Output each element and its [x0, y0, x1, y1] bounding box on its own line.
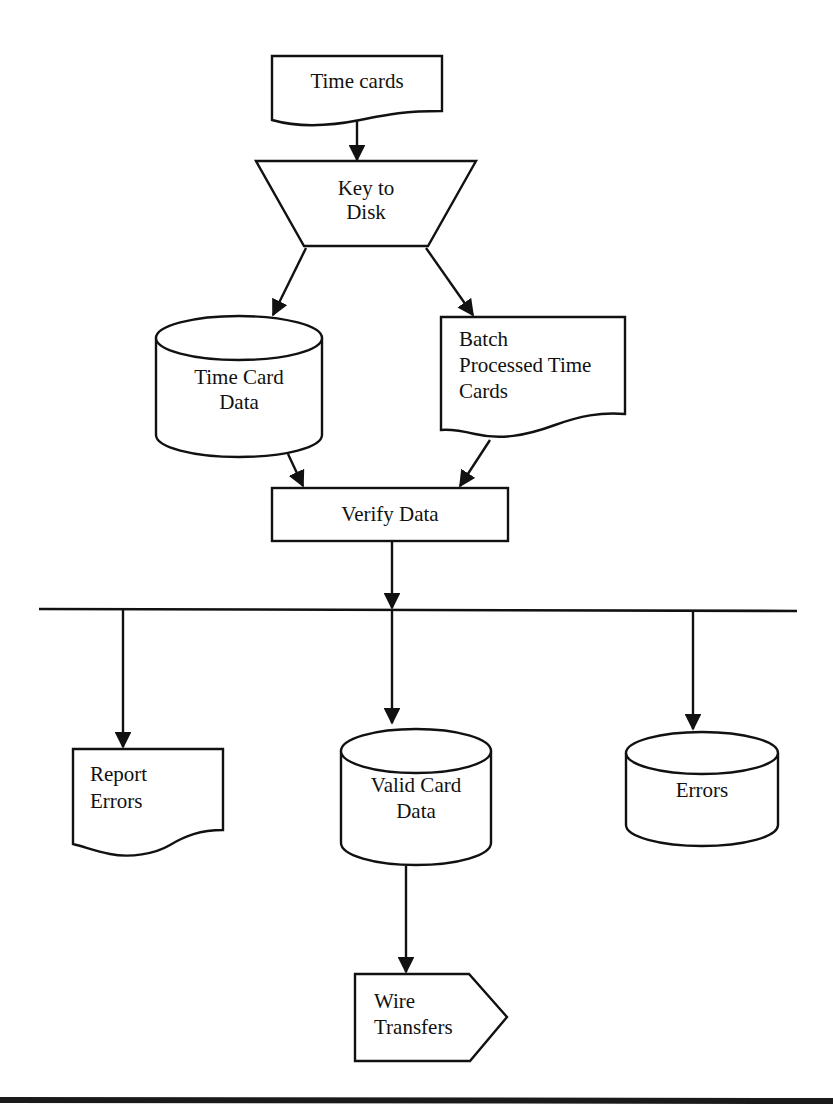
node-wire-transfers-label-2: Transfers	[374, 1015, 453, 1039]
flowchart-canvas: Time cards Key to Disk Time Card Data Ba…	[0, 0, 833, 1118]
svg-text:Batch: Batch	[459, 327, 508, 351]
node-wire-transfers-label-1: Wire	[374, 989, 415, 1013]
svg-text:Data: Data	[219, 390, 259, 414]
svg-text:Verify Data: Verify Data	[341, 502, 439, 526]
node-time-cards[interactable]: Time cards	[272, 56, 442, 125]
node-time-card-data-label-2: Data	[219, 390, 259, 414]
svg-text:Report: Report	[90, 762, 147, 786]
svg-text:Errors: Errors	[676, 778, 728, 802]
node-report-errors-label-1: Report	[90, 762, 147, 786]
svg-text:Errors: Errors	[90, 789, 142, 813]
node-errors[interactable]: Errors	[626, 732, 778, 846]
svg-text:Transfers: Transfers	[374, 1015, 453, 1039]
node-time-cards-label: Time cards	[310, 69, 403, 93]
node-valid-card-data[interactable]: Valid Card Data	[341, 729, 491, 865]
node-errors-label: Errors	[676, 778, 728, 802]
node-batch-processed-time-cards[interactable]: Batch Processed Time Cards	[441, 317, 625, 437]
node-verify-data[interactable]: Verify Data	[272, 488, 508, 541]
svg-text:Cards: Cards	[459, 379, 508, 403]
svg-text:Data: Data	[396, 799, 436, 823]
node-batch-label-3: Cards	[459, 379, 508, 403]
svg-text:Processed Time: Processed Time	[459, 353, 591, 377]
node-time-card-data-label-1: Time Card	[194, 365, 284, 389]
arrow-batch-to-verify	[460, 440, 490, 486]
svg-text:Disk: Disk	[346, 200, 386, 224]
node-time-card-data[interactable]: Time Card Data	[156, 316, 322, 457]
svg-text:Wire: Wire	[374, 989, 415, 1013]
node-key-to-disk-label-2: Disk	[346, 200, 386, 224]
node-verify-data-label: Verify Data	[341, 502, 439, 526]
node-key-to-disk[interactable]: Key to Disk	[256, 161, 476, 246]
node-valid-card-data-label-2: Data	[396, 799, 436, 823]
node-valid-card-data-label-1: Valid Card	[371, 773, 462, 797]
svg-text:Key to: Key to	[338, 176, 395, 200]
svg-text:Time cards: Time cards	[310, 69, 403, 93]
arrow-keytodisk-to-timecarddata	[273, 248, 306, 315]
svg-text:Time Card: Time Card	[194, 365, 284, 389]
arrow-keytodisk-to-batch	[426, 248, 473, 315]
arrow-timecarddata-to-verify	[288, 454, 303, 486]
node-report-errors[interactable]: Report Errors	[73, 749, 223, 856]
node-report-errors-label-2: Errors	[90, 789, 142, 813]
bottom-rule-divider	[0, 1100, 833, 1101]
node-batch-label-1: Batch	[459, 327, 508, 351]
node-key-to-disk-label-1: Key to	[338, 176, 395, 200]
node-batch-label-2: Processed Time	[459, 353, 591, 377]
node-wire-transfers[interactable]: Wire Transfers	[355, 974, 507, 1061]
distribution-bus-line	[39, 609, 797, 611]
svg-text:Valid Card: Valid Card	[371, 773, 462, 797]
